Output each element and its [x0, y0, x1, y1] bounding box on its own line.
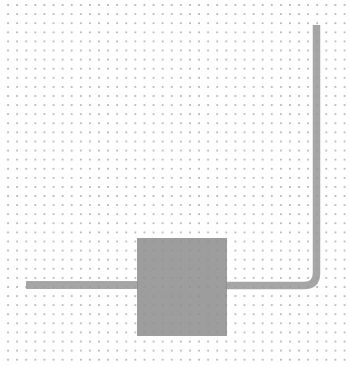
left-wire[interactable] [26, 281, 138, 289]
diagram-canvas[interactable] [0, 0, 349, 366]
component-block[interactable] [137, 238, 227, 336]
